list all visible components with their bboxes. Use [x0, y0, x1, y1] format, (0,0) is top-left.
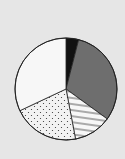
pie-chart: [0, 0, 125, 159]
pie-slices: [15, 38, 117, 140]
